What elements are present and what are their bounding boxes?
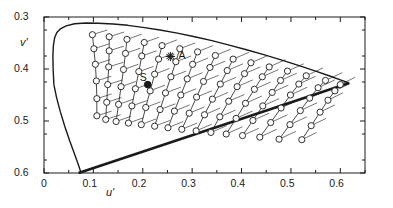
y-axis-label: v' bbox=[20, 36, 28, 48]
x-axis-label: u' bbox=[106, 186, 114, 198]
y-tick-label: 0.4 bbox=[14, 62, 29, 74]
x-tick-label: 0.6 bbox=[329, 177, 344, 189]
y-tick-label: 0.6 bbox=[14, 166, 29, 178]
x-tick-label: 0.1 bbox=[82, 177, 97, 189]
x-tick-label: 0.3 bbox=[181, 177, 196, 189]
x-tick-label: 0.4 bbox=[231, 177, 246, 189]
y-tick-label: 0.5 bbox=[14, 114, 29, 126]
chromaticity-figure: u' v' 00.10.20.30.40.50.6 0.60.50.40.3 A… bbox=[0, 0, 393, 208]
x-tick-label: 0.5 bbox=[280, 177, 295, 189]
illuminant-a-label: A bbox=[178, 49, 185, 61]
x-tick-label: 0.2 bbox=[132, 177, 147, 189]
y-tick-label: 0.3 bbox=[14, 10, 29, 22]
source-s-label: S bbox=[140, 71, 147, 83]
x-tick-label: 0 bbox=[41, 177, 47, 189]
